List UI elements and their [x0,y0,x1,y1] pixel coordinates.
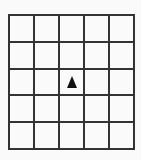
grid-cell-3-3[interactable] [85,96,110,123]
grid-cell-0-0[interactable] [10,16,35,43]
grid-cell-2-0[interactable] [10,70,35,97]
grid-cell-2-1[interactable] [35,70,60,97]
grid-cell-2-4[interactable] [110,70,135,97]
grid-cell-3-0[interactable] [10,96,35,123]
grid-cell-4-4[interactable] [110,123,135,150]
grid-cell-2-3[interactable] [85,70,110,97]
grid-cell-1-2[interactable] [60,43,85,70]
game-grid [8,14,135,150]
grid-cell-1-0[interactable] [10,43,35,70]
grid-cell-1-4[interactable] [110,43,135,70]
grid-cell-3-1[interactable] [35,96,60,123]
grid-cell-3-2[interactable] [60,96,85,123]
grid-cell-0-4[interactable] [110,16,135,43]
grid-cell-4-2[interactable] [60,123,85,150]
grid-cell-0-2[interactable] [60,16,85,43]
grid-cell-0-3[interactable] [85,16,110,43]
grid-cell-4-0[interactable] [10,123,35,150]
grid-cell-4-1[interactable] [35,123,60,150]
triangle-up-icon [67,76,77,88]
grid-cell-3-4[interactable] [110,96,135,123]
grid-cell-1-1[interactable] [35,43,60,70]
grid-cell-4-3[interactable] [85,123,110,150]
grid-cell-0-1[interactable] [35,16,60,43]
grid-cell-1-3[interactable] [85,43,110,70]
grid-cell-2-2[interactable] [60,70,85,97]
